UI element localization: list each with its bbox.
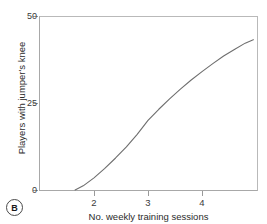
x-axis-title: No. weekly training sessions <box>39 211 258 222</box>
x-tick-mark-2 <box>94 191 95 196</box>
x-tick-label-3: 3 <box>138 197 158 208</box>
plot-area-frame <box>39 16 258 191</box>
panel-label-b: B <box>6 199 23 216</box>
x-tick-mark-4 <box>202 191 203 196</box>
x-tick-label-4: 4 <box>192 197 212 208</box>
x-axis: 2 3 4 No. weekly training sessions <box>0 190 267 224</box>
chart-figure: 50 25 0 Players with jumper's knee 2 3 4… <box>0 0 267 224</box>
x-tick-mark-3 <box>148 191 149 196</box>
y-axis-title: Players with jumper's knee <box>17 18 27 178</box>
x-tick-label-2: 2 <box>84 197 104 208</box>
